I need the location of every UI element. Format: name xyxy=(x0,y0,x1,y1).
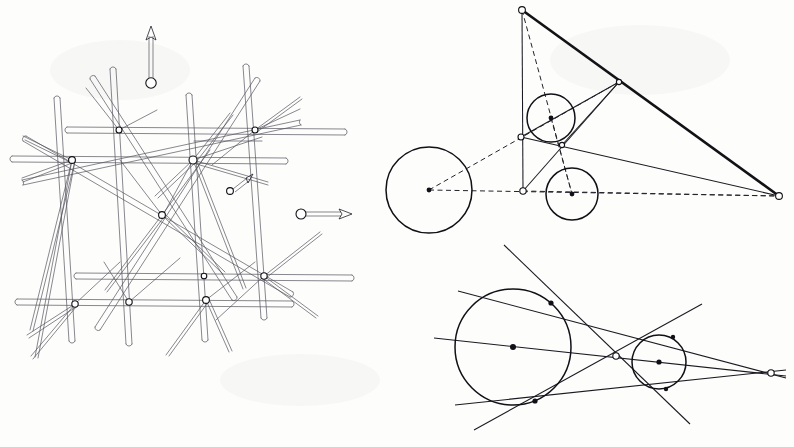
external-homothetic-center xyxy=(768,370,774,376)
internal-homothetic-center xyxy=(613,353,619,359)
external-tangent-lines xyxy=(455,291,786,405)
figure-plate: Geometric constructions plate Dense plan… xyxy=(0,0,794,447)
internal-tangent-lines xyxy=(474,245,702,430)
center-line xyxy=(434,338,786,376)
tangent-circle-pair xyxy=(455,289,686,405)
two-circles-tangents-figure xyxy=(0,0,794,447)
